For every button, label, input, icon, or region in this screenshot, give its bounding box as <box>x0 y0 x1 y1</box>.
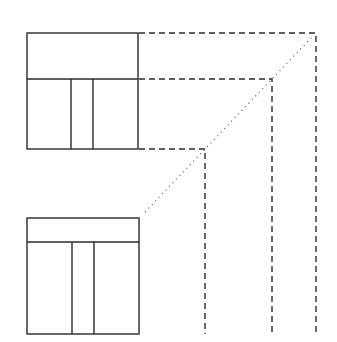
projection-line-outer <box>139 33 316 334</box>
front-view <box>27 218 139 334</box>
top-view <box>27 33 138 149</box>
top-view-outline <box>27 33 138 149</box>
projection-diagram <box>0 0 337 342</box>
miter-line <box>145 37 312 212</box>
projection-line-inner <box>139 149 205 334</box>
projection-lines <box>139 33 316 334</box>
front-view-outline <box>27 218 139 334</box>
